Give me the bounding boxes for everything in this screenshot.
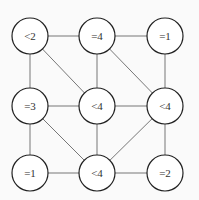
node-n20: =1 (147, 18, 183, 54)
nodes: <2=4=1=3<4<4=1<4=2 (12, 18, 183, 191)
node-n11: <4 (79, 88, 115, 124)
node-label: =1 (159, 30, 171, 42)
node-label: <4 (91, 167, 103, 179)
node-label: <2 (24, 30, 36, 42)
node-n12: <4 (79, 155, 115, 191)
node-n10: =4 (79, 18, 115, 54)
node-label: <4 (159, 100, 171, 112)
node-label: =3 (24, 100, 36, 112)
node-n21: <4 (147, 88, 183, 124)
node-n22: =2 (147, 155, 183, 191)
node-n01: =3 (12, 88, 48, 124)
node-label: <4 (91, 100, 103, 112)
grid-graph-diagram: <2=4=1=3<4<4=1<4=2 (0, 0, 199, 200)
node-n02: =1 (12, 155, 48, 191)
node-label: =1 (24, 167, 36, 179)
node-label: =2 (159, 167, 171, 179)
node-n00: <2 (12, 18, 48, 54)
node-label: =4 (91, 30, 103, 42)
